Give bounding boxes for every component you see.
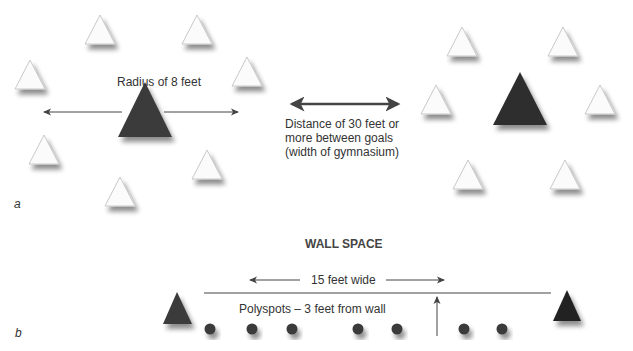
polyspot (353, 324, 364, 335)
cone-triangle (29, 135, 59, 164)
polyspot (247, 324, 258, 335)
radius-label: Radius of 8 feet (117, 75, 201, 89)
polyspots (205, 324, 508, 335)
width-label: 15 feet wide (311, 273, 376, 287)
cone-triangle (15, 60, 45, 89)
part-b-left-goal (163, 292, 192, 324)
polyspot (287, 324, 298, 335)
wall-space-title: WALL SPACE (305, 237, 383, 251)
cone-triangle (182, 15, 212, 44)
polyspot (459, 324, 470, 335)
cone-triangle (550, 160, 580, 189)
distance-label-3: (width of gymnasium) (285, 145, 399, 159)
cone-triangle (85, 15, 115, 44)
cone-triangle (192, 150, 222, 179)
left-goal-triangle (118, 82, 172, 137)
cone-triangle (447, 27, 477, 56)
cone-triangle (585, 85, 615, 114)
distance-label-2: more between goals (285, 131, 393, 145)
part-b-right-goal (553, 290, 581, 321)
cone-triangle (232, 57, 262, 86)
part-a-label: a (14, 197, 21, 211)
cone-triangle (548, 27, 578, 56)
diagram-canvas (0, 0, 633, 351)
cone-triangle (453, 160, 483, 189)
polyspots-label: Polyspots – 3 feet from wall (239, 302, 386, 316)
polyspot (392, 324, 403, 335)
polyspot (205, 324, 216, 335)
part-b-label: b (15, 326, 22, 340)
cone-triangle (105, 177, 135, 206)
polyspot (497, 324, 508, 335)
distance-label-1: Distance of 30 feet or (285, 117, 399, 131)
cone-triangle (421, 85, 451, 114)
right-goal-triangle (493, 72, 547, 125)
